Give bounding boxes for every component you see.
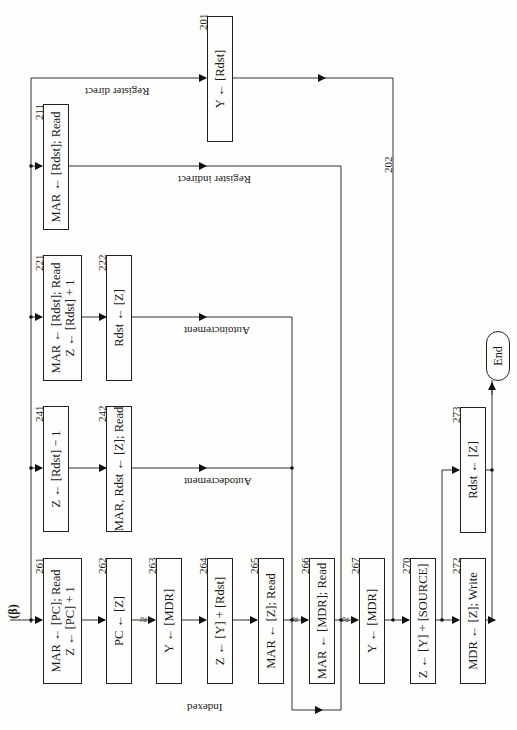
step-number: 264: [197, 558, 209, 575]
step-number: 263: [146, 558, 158, 575]
line-label-202: 202: [382, 157, 394, 174]
end-terminal: End: [486, 331, 510, 381]
step-number: 272: [450, 558, 462, 575]
entry-label: (β): [6, 604, 21, 618]
step-text: Y ← [MDR]: [162, 589, 176, 653]
step-text: PC ← [Z]: [112, 596, 126, 646]
step-text: MAR ← [MDR]; Read: [315, 563, 329, 679]
step-box-211: MAR ← [Rdst]; Read: [43, 104, 69, 230]
path-label-autoincrement: Autoincrement: [184, 325, 250, 337]
step-number: 262: [96, 558, 108, 575]
step-text: Z ← [Y] + [Rdst]: [213, 577, 227, 665]
step-number: 273: [450, 407, 462, 424]
step-box-222: Rdst ← [Z]: [106, 255, 132, 381]
path-label-indexed: Indexed: [187, 702, 222, 714]
step-box-266: MAR ← [MDR]; Read: [309, 558, 335, 684]
step-number: 201: [197, 14, 209, 31]
step-box-270: Z ← [Y] + [SOURCE]: [410, 558, 436, 684]
path-label-autodecrement: Autodecrement: [184, 476, 252, 488]
step-box-267: Y ← [MDR]: [359, 558, 385, 684]
path-label-register-direct: Register direct: [85, 86, 149, 98]
step-text: Z ← [Y] + [SOURCE]: [416, 564, 430, 679]
step-box-201: Y ← [Rdst]: [207, 16, 233, 142]
step-text: MDR ← [Z]; Write: [466, 572, 480, 670]
end-text: End: [491, 346, 506, 365]
step-text: Z ← [Rdst] − 1: [49, 430, 63, 507]
step-number: 267: [349, 558, 361, 575]
step-number: 270: [400, 558, 412, 575]
step-text: MAR ← [PC]; ReadZ ← [PC] + 1: [49, 569, 77, 672]
step-number: 265: [248, 558, 260, 575]
step-text: MAR ← [Z]; Read: [264, 573, 278, 668]
wait-symbol: ≈: [342, 612, 349, 627]
wait-symbol: ≈: [140, 612, 147, 627]
step-text: MAR ← [Rdst]; Read: [49, 112, 63, 223]
step-number: 211: [33, 104, 45, 120]
step-text: Rdst ← [Z]: [112, 289, 126, 347]
step-text: MAR, Rdst ← [Z]; Read: [112, 407, 126, 532]
step-box-264: Z ← [Y] + [Rdst]: [207, 558, 233, 684]
wait-symbol: ≈: [291, 612, 298, 627]
step-number: 221: [33, 255, 45, 272]
step-text: Y ← [Rdst]: [213, 50, 227, 109]
step-box-241: Z ← [Rdst] − 1: [43, 406, 69, 532]
step-box-272: MDR ← [Z]; Write: [460, 558, 486, 684]
step-text: MAR ← [Rdst]; ReadZ ← [Rdst] + 1: [49, 263, 77, 374]
step-number: 242: [96, 406, 108, 423]
step-box-262: PC ← [Z]: [106, 558, 132, 684]
step-text: Y ← [MDR]: [365, 589, 379, 653]
step-number: 222: [96, 255, 108, 272]
step-box-263: Y ← [MDR]: [156, 558, 182, 684]
step-box-261: MAR ← [PC]; ReadZ ← [PC] + 1: [43, 558, 82, 684]
step-number: 266: [299, 558, 311, 575]
step-number: 241: [33, 406, 45, 423]
step-number: 261: [33, 558, 45, 575]
step-box-221: MAR ← [Rdst]; ReadZ ← [Rdst] + 1: [43, 255, 82, 381]
step-text: Rdst ← [Z]: [466, 441, 480, 499]
step-box-265: MAR ← [Z]; Read: [258, 558, 284, 684]
step-box-273: Rdst ← [Z]: [460, 407, 486, 533]
path-label-register-indirect: Register indirect: [178, 174, 251, 186]
junction-dots: [29, 164, 494, 622]
step-box-242: MAR, Rdst ← [Z]; Read: [106, 406, 132, 532]
